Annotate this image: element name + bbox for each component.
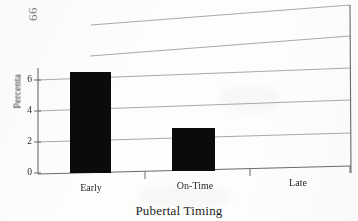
gridline-10 xyxy=(91,5,350,25)
y-axis-title: Percenta xyxy=(12,54,23,130)
y-tick-label-2: 2 xyxy=(16,136,32,146)
plot-right-border xyxy=(350,5,351,173)
x-category-label-early: Early xyxy=(66,182,116,193)
bar-chart: 66 6 4 2 0 Percenta Early On-Time Lat xyxy=(0,0,358,221)
bar-early xyxy=(70,72,111,173)
x-category-label-on-time: On-Time xyxy=(169,180,221,191)
bar-on-time xyxy=(172,128,215,171)
x-category-label-late: Late xyxy=(275,177,321,188)
x-axis-title: Pubertal Timing xyxy=(0,203,358,219)
gridline-8 xyxy=(90,36,350,56)
y-tick-label-0: 0 xyxy=(16,167,32,177)
